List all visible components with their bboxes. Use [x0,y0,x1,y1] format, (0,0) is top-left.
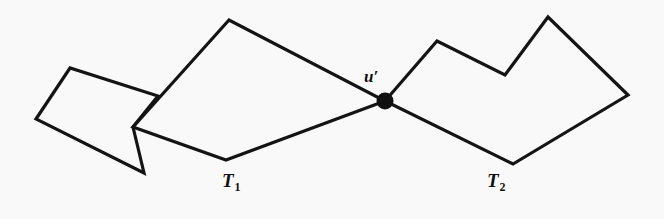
tree-label-t1: T1 [222,171,240,190]
tree-label-t2: T2 [487,171,505,190]
node-u-prime-dot[interactable] [377,93,394,110]
tree-2-group [385,17,628,164]
figure-canvas: u′ T1 T2 [0,0,664,219]
node-label-u-prime: u′ [364,68,378,85]
tree-2-outline [385,17,628,164]
tree-label-t2-base: T [487,170,499,191]
tree-label-t1-subscript: 1 [235,180,241,194]
tree-1-group [36,20,385,173]
tree-label-t1-base: T [222,170,234,191]
node-label-prime: ′ [373,67,378,86]
tree-1-right-quad [133,20,385,160]
graph-drawing [0,0,664,219]
tree-label-t2-subscript: 2 [500,180,506,194]
